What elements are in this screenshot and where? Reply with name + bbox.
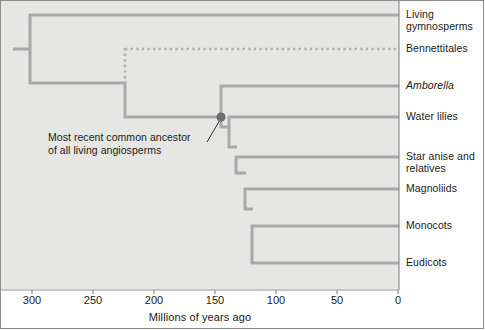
axis-tick-label-0: 0 — [395, 294, 401, 306]
axis-title: Millions of years ago — [149, 311, 251, 323]
axis-tick-label-250: 250 — [84, 294, 102, 306]
tip-label-bennettitales: Bennettitales — [406, 42, 468, 54]
axis-tick-label-300: 300 — [23, 294, 41, 306]
tip-label-amborella: Amborella — [406, 79, 454, 91]
mrca-node-marker — [216, 112, 225, 121]
mrca-annotation-text: Most recent common ancestor of all livin… — [48, 131, 238, 156]
phylogenetic-tree-figure: Living gymnosperms Bennettitales Amborel… — [0, 0, 485, 330]
tip-label-monocots: Monocots — [406, 219, 452, 231]
axis-tick-label-50: 50 — [331, 294, 343, 306]
axis-tick-label-150: 150 — [206, 294, 224, 306]
tip-label-star-anise-and-relatives: Star anise and relatives — [406, 150, 475, 175]
tip-label-magnoliids: Magnoliids — [406, 182, 457, 194]
tip-label-living-gymnosperms: Living gymnosperms — [406, 8, 473, 33]
branch-bennettitales-dotted — [125, 48, 399, 84]
axis-tick-label-100: 100 — [267, 294, 285, 306]
axis-tick-label-200: 200 — [145, 294, 163, 306]
tip-label-eudicots: Eudicots — [406, 256, 447, 268]
tip-label-water-lilies: Water lilies — [406, 110, 458, 122]
